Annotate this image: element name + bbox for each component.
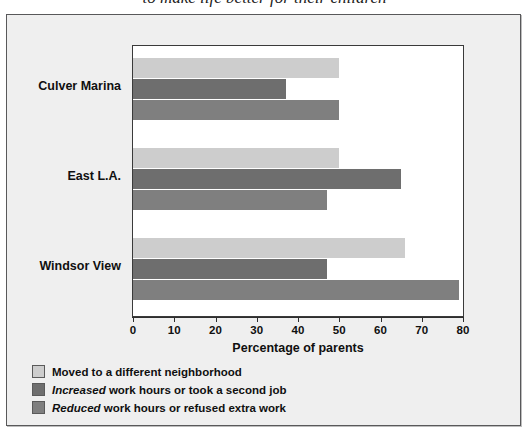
x-axis-tick-label: 70	[415, 324, 428, 336]
caption-strip: to make life better for their children	[0, 0, 529, 14]
bar-group	[133, 58, 463, 121]
bar[interactable]	[133, 79, 286, 99]
legend-swatch-icon	[32, 401, 45, 414]
category-label: Windsor View	[7, 259, 125, 273]
x-axis-tick	[381, 317, 382, 322]
category-label: East L.A.	[7, 169, 125, 183]
x-axis-tick-label: 50	[333, 324, 346, 336]
legend-item[interactable]: Reduced work hours or refused extra work	[32, 399, 287, 416]
bar[interactable]	[133, 148, 339, 168]
bar-group	[133, 148, 463, 211]
bar[interactable]	[133, 169, 401, 189]
x-axis-tick	[463, 317, 464, 322]
category-label: Culver Marina	[7, 79, 125, 93]
legend-swatch-icon	[32, 365, 45, 378]
x-axis-tick-label: 30	[250, 324, 263, 336]
x-axis-tick	[257, 317, 258, 322]
category-axis: Culver MarinaEast L.A.Windsor View	[7, 45, 125, 317]
legend-item[interactable]: Increased work hours or took a second jo…	[32, 381, 287, 398]
figure-caption: to make life better for their children	[143, 0, 387, 8]
legend-swatch-icon	[32, 383, 45, 396]
x-axis-tick	[339, 317, 340, 322]
legend-item[interactable]: Moved to a different neighborhood	[32, 363, 287, 380]
bar[interactable]	[133, 238, 405, 258]
legend-label: Moved to a different neighborhood	[52, 366, 242, 378]
x-axis-title: Percentage of parents	[132, 341, 464, 355]
figure-panel: Culver MarinaEast L.A.Windsor View 01020…	[6, 14, 521, 426]
plot-area	[133, 46, 463, 316]
bar[interactable]	[133, 190, 327, 210]
bar[interactable]	[133, 100, 339, 120]
bar[interactable]	[133, 58, 339, 78]
x-axis-tick-label: 40	[292, 324, 305, 336]
x-axis-tick	[133, 317, 134, 322]
legend-label: Increased work hours or took a second jo…	[52, 384, 287, 396]
bar[interactable]	[133, 280, 459, 300]
x-axis-tick	[298, 317, 299, 322]
x-axis-tick-label: 0	[130, 324, 136, 336]
bar-group	[133, 238, 463, 301]
x-axis-tick	[174, 317, 175, 322]
bar[interactable]	[133, 259, 327, 279]
x-axis-tick	[216, 317, 217, 322]
x-axis-tick	[422, 317, 423, 322]
x-axis-tick-label: 60	[374, 324, 387, 336]
x-axis-tick-label: 10	[168, 324, 181, 336]
x-axis-tick-label: 80	[457, 324, 470, 336]
x-axis-tick-label: 20	[209, 324, 222, 336]
chart-legend: Moved to a different neighborhoodIncreas…	[32, 363, 287, 417]
plot-frame	[132, 45, 464, 317]
legend-label: Reduced work hours or refused extra work	[52, 402, 286, 414]
